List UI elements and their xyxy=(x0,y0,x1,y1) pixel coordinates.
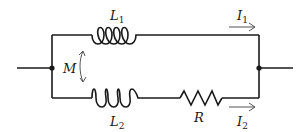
mutual-inductance-arrow xyxy=(80,51,83,82)
i1-label: I1 xyxy=(236,8,248,25)
i2-label: I2 xyxy=(236,114,248,131)
mutual-inductance-label: M xyxy=(62,61,77,76)
inductor-l2 xyxy=(92,89,142,107)
l2-label: L2 xyxy=(109,114,124,131)
inductor-l1 xyxy=(92,28,142,45)
l1-label: L1 xyxy=(109,8,124,25)
circuit-diagram: M L1 L2 R I1 I2 xyxy=(0,0,301,132)
resistor-r xyxy=(180,91,222,105)
r-label: R xyxy=(193,110,204,125)
mutual-arrow-head-down xyxy=(80,77,86,82)
